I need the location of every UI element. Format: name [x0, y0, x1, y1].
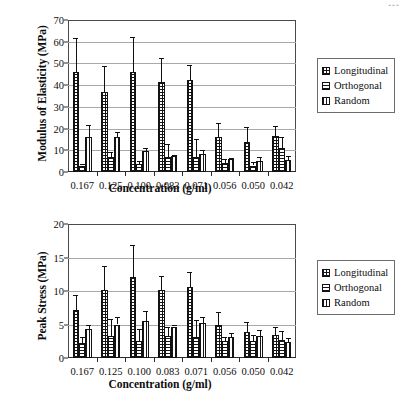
- error-bar-line: [253, 335, 254, 342]
- y-axis-tick-mark: [64, 324, 68, 325]
- y-axis-title-container: Modulus of Elasticity (MPa): [22, 14, 40, 174]
- bar: [256, 336, 262, 358]
- error-bar-cap: [251, 162, 256, 163]
- chart-modulus-of-elasticity: Modulus of Elasticity (MPa) 010203040506…: [22, 14, 294, 204]
- bar: [130, 72, 136, 172]
- legend-label-random: Random: [334, 297, 370, 308]
- x-axis-tick-mark: [154, 358, 155, 362]
- y-axis-tick-mark: [64, 20, 68, 21]
- y-axis-tick-mark: [64, 63, 68, 64]
- y-axis-tick-mark: [64, 106, 68, 107]
- error-bar-cap: [187, 272, 192, 273]
- y-axis-tick-label: 0: [59, 353, 64, 364]
- gridline: [68, 258, 296, 259]
- x-axis-tick-label: 0.167: [70, 366, 94, 377]
- x-axis-title: Concentration (g/ml): [46, 182, 274, 194]
- figure-modulus-of-elasticity: Modulus of Elasticity (MPa) 010203040506…: [0, 0, 418, 204]
- error-bar-cap: [273, 327, 278, 328]
- error-bar-cap: [216, 123, 221, 124]
- y-axis-tick-mark: [64, 128, 68, 129]
- legend-swatch-longitudinal-icon: [322, 67, 330, 75]
- error-bar-cap: [279, 331, 284, 332]
- legend-modulus-of-elasticity: Longitudinal Orthogonal Random: [317, 58, 395, 113]
- error-bar-cap: [137, 161, 142, 162]
- error-bar-cap: [229, 158, 234, 159]
- error-bar-cap: [102, 266, 107, 267]
- bar: [114, 325, 120, 359]
- x-axis-tick-mark: [125, 172, 126, 176]
- y-axis-tick-label: 20: [54, 219, 65, 230]
- error-bar-cap: [102, 66, 107, 67]
- x-axis-tick-mark: [268, 172, 269, 176]
- error-bar-line: [161, 58, 162, 82]
- y-axis-tick-label: 50: [54, 58, 65, 69]
- error-bar-cap: [108, 319, 113, 320]
- x-axis-tick-label: 0.050: [241, 366, 265, 377]
- error-bar-line: [111, 319, 112, 336]
- error-bar-line: [146, 311, 147, 321]
- y-axis-tick-label: 20: [54, 123, 65, 134]
- y-axis-tick-label: 15: [54, 252, 65, 263]
- legend-item-orthogonal: Orthogonal: [322, 78, 388, 93]
- error-bar-cap: [115, 132, 120, 133]
- error-bar-line: [275, 126, 276, 136]
- error-bar-cap: [244, 127, 249, 128]
- y-axis-title-container: Peak Stress (MPa): [22, 218, 40, 378]
- error-bar-cap: [130, 37, 135, 38]
- error-bar-cap: [187, 65, 192, 66]
- x-axis-tick-mark: [211, 358, 212, 362]
- error-bar-cap: [200, 150, 205, 151]
- bar: [171, 156, 177, 172]
- error-bar-cap: [80, 337, 85, 338]
- legend-item-random: Random: [322, 93, 388, 108]
- error-bar-cap: [257, 157, 262, 158]
- y-axis-tick-label: 5: [59, 319, 64, 330]
- bar: [73, 72, 79, 172]
- error-bar-cap: [172, 325, 177, 326]
- error-bar-line: [275, 327, 276, 335]
- error-bar-cap: [80, 164, 85, 165]
- error-bar-cap: [194, 139, 199, 140]
- y-axis-tick-label: 0: [59, 167, 64, 178]
- error-bar-cap: [200, 317, 205, 318]
- x-axis-tick-mark: [97, 172, 98, 176]
- error-bar-cap: [86, 325, 91, 326]
- x-axis-tick-mark: [125, 358, 126, 362]
- legend-swatch-random-icon: [322, 97, 330, 105]
- error-bar-line: [76, 295, 77, 310]
- error-bar-line: [89, 125, 90, 137]
- legend-item-longitudinal: Longitudinal: [322, 265, 388, 280]
- error-bar-cap: [73, 295, 78, 296]
- error-bar-cap: [143, 311, 148, 312]
- error-bar-cap: [108, 152, 113, 153]
- bar: [199, 323, 205, 358]
- y-axis-tick-label: 10: [54, 286, 65, 297]
- legend-item-random: Random: [322, 295, 388, 310]
- y-axis-tick-label: 40: [54, 80, 65, 91]
- error-bar-cap: [244, 322, 249, 323]
- error-bar-cap: [286, 338, 291, 339]
- legend-label-orthogonal: Orthogonal: [334, 80, 382, 91]
- gridline: [68, 42, 296, 43]
- error-bar-line: [133, 37, 134, 72]
- error-bar-cap: [159, 276, 164, 277]
- x-axis-tick-label: 0.100: [127, 366, 151, 377]
- bar: [228, 159, 234, 172]
- error-bar-line: [190, 65, 191, 80]
- y-axis-tick-label: 60: [54, 36, 65, 47]
- error-bar-line: [104, 66, 105, 92]
- legend-label-longitudinal: Longitudinal: [334, 267, 388, 278]
- error-bar-line: [168, 327, 169, 336]
- y-axis-tick-label: 10: [54, 145, 65, 156]
- bar: [199, 154, 205, 172]
- bar: [142, 321, 148, 358]
- error-bar-line: [247, 127, 248, 141]
- legend-item-orthogonal: Orthogonal: [322, 280, 388, 295]
- x-axis-tick-mark: [239, 358, 240, 362]
- y-axis-tick-label: 30: [54, 101, 65, 112]
- plot-area-modulus-of-elasticity: 0102030405060700.1670.1250.1000.0830.071…: [68, 20, 296, 172]
- legend-swatch-longitudinal-icon: [322, 269, 330, 277]
- x-axis-tick-mark: [268, 358, 269, 362]
- figure-peak-stress: Peak Stress (MPa) 051015200.1670.1250.10…: [0, 204, 418, 408]
- error-bar-line: [247, 322, 248, 332]
